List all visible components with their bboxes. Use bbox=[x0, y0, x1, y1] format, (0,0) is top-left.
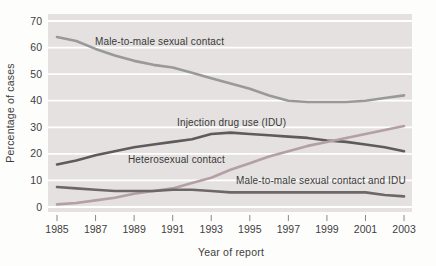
x-tick-label: 1999 bbox=[315, 223, 339, 235]
series-label-male-to-male-and-idu: Male-to-male sexual contact and IDU bbox=[236, 175, 406, 186]
x-tick-label: 1993 bbox=[200, 223, 224, 235]
y-tick-label: 70 bbox=[30, 15, 42, 27]
x-tick-label: 1991 bbox=[161, 223, 185, 235]
x-tick-label: 1989 bbox=[122, 223, 146, 235]
x-tick-label: 1987 bbox=[84, 223, 108, 235]
y-tick-label: 50 bbox=[30, 68, 42, 80]
y-tick-label: 30 bbox=[30, 121, 42, 133]
x-tick-label: 2003 bbox=[392, 223, 416, 235]
figure: 0102030405060701985198719891991199319951… bbox=[0, 0, 436, 266]
x-axis-title: Year of report bbox=[198, 246, 264, 258]
y-tick-label: 20 bbox=[30, 147, 42, 159]
series-label-heterosexual-contact: Heterosexual contact bbox=[128, 154, 225, 165]
x-tick-label: 1985 bbox=[45, 223, 69, 235]
y-tick-label: 0 bbox=[36, 201, 42, 213]
x-tick-label: 1995 bbox=[238, 223, 262, 235]
y-axis-title: Percentage of cases bbox=[4, 63, 16, 163]
y-tick-label: 40 bbox=[30, 94, 42, 106]
y-tick-label: 60 bbox=[30, 41, 42, 53]
series-label-male-to-male-sexual-contact: Male-to-male sexual contact bbox=[95, 36, 224, 47]
series-label-injection-drug-use: Injection drug use (IDU) bbox=[177, 117, 286, 128]
x-tick-label: 2001 bbox=[354, 223, 378, 235]
x-tick-label: 1997 bbox=[277, 223, 301, 235]
y-tick-label: 10 bbox=[30, 174, 42, 186]
